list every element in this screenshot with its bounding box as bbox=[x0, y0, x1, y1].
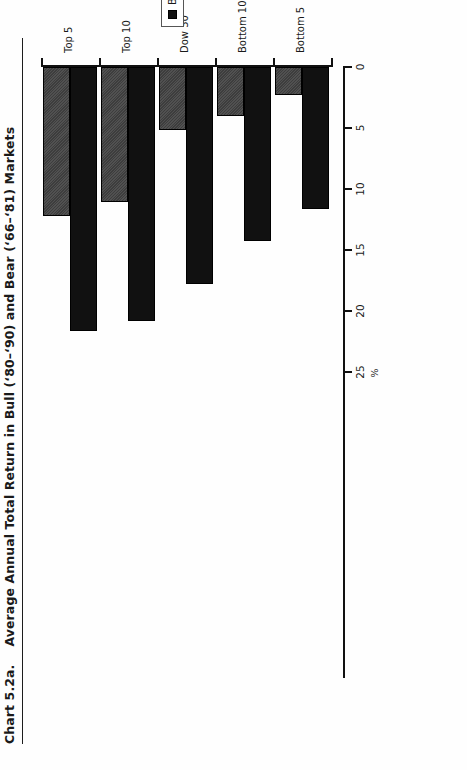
chart-title-line: Chart 5.2a. Average Annual Total Return … bbox=[2, 0, 17, 770]
bar-bull-market bbox=[186, 67, 213, 284]
legend-swatch-bull bbox=[168, 10, 177, 19]
category-label: Bottom 10 bbox=[237, 0, 248, 53]
axis-tick-label: 25 bbox=[354, 365, 366, 378]
category-label: Top 10 bbox=[121, 20, 132, 53]
axis-tick-label: 20 bbox=[354, 304, 366, 317]
legend-label: Bull Market bbox=[167, 0, 178, 5]
category-label: Bottom 5 bbox=[295, 7, 306, 53]
bar-bull-market bbox=[70, 67, 97, 331]
axis-tick bbox=[343, 310, 352, 312]
axis-tick bbox=[343, 66, 352, 68]
bar-bear-market bbox=[217, 67, 244, 116]
page-canvas: Chart 5.2a. Average Annual Total Return … bbox=[0, 0, 467, 770]
legend-item: Bull Market bbox=[167, 0, 178, 19]
bar-bull-market bbox=[302, 67, 329, 209]
axis-tick bbox=[343, 371, 352, 373]
figure-number: Chart 5.2a. bbox=[2, 665, 17, 744]
bar-bull-market bbox=[244, 67, 271, 241]
bar-bull-market bbox=[128, 67, 155, 321]
bar-bear-market bbox=[275, 67, 302, 95]
axis-tick bbox=[343, 188, 352, 190]
bar-bear-market bbox=[159, 67, 186, 130]
bar-chart-plot: 0510152025 % Top 5Top 10Dow 30Bottom 10B… bbox=[38, 58, 368, 678]
axis-tick-label: 0 bbox=[354, 64, 366, 71]
bar-bear-market bbox=[43, 67, 70, 216]
bar-bear-market bbox=[101, 67, 128, 202]
value-axis-title: % bbox=[369, 368, 380, 377]
axis-tick-label: 10 bbox=[354, 182, 366, 195]
title-divider bbox=[22, 38, 23, 744]
axis-tick bbox=[343, 249, 352, 251]
chart-legend: Bull MarketBear Market bbox=[161, 0, 184, 27]
category-tick bbox=[331, 58, 333, 67]
axis-tick-label: 15 bbox=[354, 243, 366, 256]
axis-tick-label: 5 bbox=[354, 125, 366, 132]
axis-tick bbox=[343, 127, 352, 129]
page-title: Average Annual Total Return in Bull (‘80… bbox=[2, 127, 17, 647]
category-label: Top 5 bbox=[63, 27, 74, 53]
chart-rotation-wrapper: 0510152025 % Top 5Top 10Dow 30Bottom 10B… bbox=[38, 58, 368, 678]
